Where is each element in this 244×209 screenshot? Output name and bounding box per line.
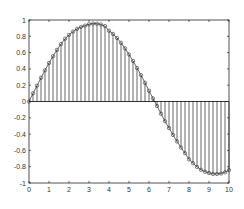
x-tick-label: 10 [225, 186, 233, 193]
y-tick-label: 0 [22, 98, 26, 105]
x-tick-label: 4 [107, 186, 111, 193]
x-tick-label: 9 [207, 186, 211, 193]
y-tick-label: 0.8 [16, 33, 26, 40]
x-tick-label: 6 [147, 186, 151, 193]
y-tick-label: 0.4 [16, 65, 26, 72]
y-tick-label: -0.4 [14, 131, 26, 138]
x-tick-label: 7 [167, 186, 171, 193]
x-tick-label: 8 [187, 186, 191, 193]
y-tick-label: -0.6 [14, 147, 26, 154]
x-tick-label: 5 [127, 186, 131, 193]
x-tick-label: 0 [27, 186, 31, 193]
y-tick-label: 0.2 [16, 82, 26, 89]
x-tick-label: 1 [47, 186, 51, 193]
y-tick-label: 0.6 [16, 49, 26, 56]
y-tick-label: -0.8 [14, 163, 26, 170]
y-tick-label: 1 [22, 17, 26, 24]
x-tick-label: 3 [87, 186, 91, 193]
y-tick-label: -1 [20, 180, 26, 187]
stem-plot-figure: 012345678910 -1-0.8-0.6-0.4-0.200.20.40.… [0, 0, 244, 209]
x-tick-label: 2 [67, 186, 71, 193]
y-tick-label: -0.2 [14, 114, 26, 121]
